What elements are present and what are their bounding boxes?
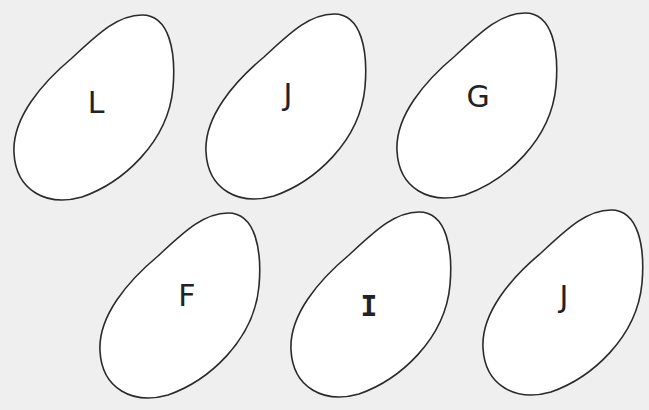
blob-letter: L [88,88,105,118]
blob-shape-5: I [289,210,453,398]
blob-letter: J [560,282,569,312]
blob-letter: F [178,281,195,311]
blob-letter: I [361,293,378,321]
blob-letter: J [284,80,293,110]
blob-shape-3: G [395,11,559,199]
blob-letter: G [466,82,489,112]
blob-shape-2: J [204,12,368,200]
blob-shape-1: L [12,13,176,201]
blob-shape-4: F [98,211,262,399]
blob-shape-6: J [481,208,645,396]
